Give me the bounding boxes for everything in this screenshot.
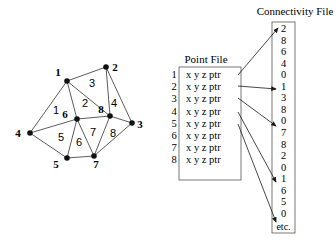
connectivity-value: 5 [281, 196, 286, 207]
connectivity-value: 1 [281, 81, 286, 92]
connectivity-value: 4 [281, 58, 287, 69]
pointer-arrow-2 [238, 86, 276, 89]
triangle-label: 8 [110, 127, 116, 139]
point-record: x y z ptr [186, 81, 221, 92]
mesh-edge [67, 67, 106, 81]
connectivity-value: 2 [281, 23, 286, 34]
connectivity-value: 1 [281, 173, 286, 184]
mesh-node [64, 155, 70, 161]
connectivity-value: 0 [281, 162, 286, 173]
point-index: 4 [171, 106, 177, 117]
node-label: 7 [93, 158, 99, 170]
pointer-arrow-4 [238, 112, 276, 182]
mesh-edge [110, 116, 132, 123]
connectivity-value: 6 [281, 185, 286, 196]
mesh-edge [67, 81, 77, 119]
connectivity-value: 2 [281, 150, 286, 161]
connectivity-value: 0 [281, 69, 286, 80]
mesh-node [103, 64, 109, 70]
triangle-label: 1 [53, 104, 59, 116]
mesh-node [129, 120, 135, 126]
node-label: 6 [62, 108, 68, 120]
mesh-node [64, 78, 70, 84]
point-index: 8 [171, 154, 176, 165]
pointer-arrow-5 [238, 124, 276, 222]
point-record: x y z ptr [186, 142, 221, 153]
connectivity-value: 8 [281, 104, 286, 115]
mesh-node [107, 113, 113, 119]
connectivity-value: 7 [281, 127, 286, 138]
mesh-edge [94, 116, 110, 156]
point-index: 3 [171, 93, 176, 104]
triangle-label: 7 [90, 126, 96, 138]
mesh-node [27, 130, 33, 136]
node-label: 2 [112, 61, 118, 73]
point-index: 7 [171, 142, 176, 153]
point-index: 2 [171, 81, 176, 92]
mesh-diagram: 12345678 12345678 Point File 1x y z ptr2… [0, 0, 336, 247]
node-label: 1 [55, 66, 61, 78]
node-label: 4 [15, 127, 21, 139]
triangle-label: 6 [76, 136, 82, 148]
node-label: 5 [53, 158, 59, 170]
point-index: 5 [171, 118, 176, 129]
connectivity-value: 8 [281, 139, 286, 150]
point-file-title: Point File [184, 53, 227, 65]
point-record: x y z ptr [186, 69, 221, 80]
triangle-label: 5 [58, 131, 64, 143]
point-record: x y z ptr [186, 154, 221, 165]
connectivity-values: 28640138078201650etc. [276, 23, 290, 232]
point-record: x y z ptr [186, 130, 221, 141]
mesh-edge [30, 81, 67, 133]
mesh-edge [67, 156, 94, 158]
connectivity-value: 6 [281, 46, 286, 57]
point-index: 1 [171, 69, 176, 80]
point-record: x y z ptr [186, 118, 221, 129]
node-label: 8 [98, 103, 104, 115]
connectivity-value: 8 [281, 35, 286, 46]
node-label: 3 [137, 118, 143, 130]
mesh-node [74, 116, 80, 122]
mesh-nodes: 12345678 [15, 61, 143, 170]
connectivity-value: 0 [281, 115, 286, 126]
point-record: x y z ptr [186, 93, 221, 104]
triangle-label: 4 [111, 97, 117, 109]
point-record: x y z ptr [186, 106, 221, 117]
mesh-edge [30, 119, 77, 133]
connectivity-value: 3 [281, 92, 286, 103]
triangle-label: 2 [82, 97, 88, 109]
point-index: 6 [171, 130, 176, 141]
triangle-label: 3 [89, 77, 95, 89]
connectivity-value: 0 [281, 208, 286, 219]
connectivity-etc: etc. [276, 221, 290, 232]
connectivity-file-title: Connectivity File [257, 5, 334, 17]
mesh-edge [77, 116, 110, 119]
